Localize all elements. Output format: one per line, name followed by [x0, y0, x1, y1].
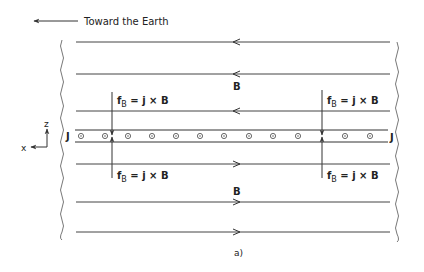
field-label-bottom: B: [233, 186, 241, 197]
x-axis-label: x: [21, 143, 27, 153]
left-boundary-wavy: [61, 40, 64, 240]
z-axis-label: z: [44, 119, 49, 129]
force-label-top-right: fB = j × B: [327, 95, 379, 109]
current-sheet-diagram: Toward the Earth B: [0, 0, 424, 272]
figure-caption: a): [234, 248, 243, 258]
force-label-bottom-right: fB = j × B: [327, 170, 379, 184]
current-label-right: J: [389, 132, 394, 143]
right-boundary-wavy: [396, 42, 399, 242]
current-out-of-page-icons: [78, 133, 372, 138]
direction-label: Toward the Earth: [83, 16, 169, 27]
force-label-bottom-left: fB = j × B: [117, 170, 169, 184]
force-label-top-left: fB = j × B: [117, 95, 169, 109]
field-label-top: B: [233, 81, 241, 92]
coordinate-axes: [31, 129, 47, 147]
current-sheet: [75, 130, 388, 142]
current-label-left: J: [65, 131, 70, 142]
